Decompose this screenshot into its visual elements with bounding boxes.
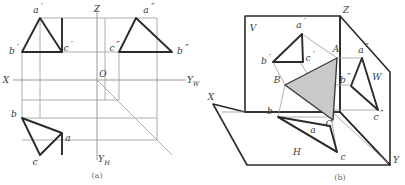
plane-label-w: W (372, 72, 382, 82)
plane-w-poly (340, 16, 390, 165)
label-B-right: B (273, 75, 281, 85)
label-a-prime-left: a (33, 5, 38, 15)
axis-label-z-left: Z (93, 4, 101, 14)
triangle-a-b-c-frontal (22, 18, 62, 52)
label-a-plain-left: a (65, 133, 70, 143)
label-a-double-prime-right: a (358, 45, 363, 55)
label-b-double-prime-right-mark: ″ (347, 72, 351, 82)
label-c-plain-left: c (32, 157, 37, 167)
plane-h-poly (213, 104, 390, 165)
label-c-double-prime-right-mark: ″ (380, 109, 384, 119)
triangle-a-b-c-horizontal (22, 118, 62, 155)
label-c-double-prime-left: c (109, 43, 114, 53)
frontal-triangle-right (273, 34, 303, 62)
axis-label-z-right: Z (342, 5, 350, 15)
label-b-plain-right: b (267, 106, 273, 116)
axis-label-x-left: X (2, 75, 10, 85)
label-c-plain-right: c (340, 152, 345, 162)
profile-projection-triangle (119, 18, 172, 52)
shaded-triangle-ABC (285, 58, 337, 120)
triangle-abc-double-right (351, 58, 378, 110)
axes-left (13, 8, 186, 160)
plane-h-outline (213, 104, 390, 165)
label-c-prime-right-mark: ′ (313, 50, 315, 60)
label-a-double-prime-left: a (143, 5, 148, 15)
right-pictorial-view: V H W X Z Y A B C a ′ b ′ c ′ a ″ b ″ c … (207, 5, 400, 182)
label-b-plain-left: b (11, 109, 17, 119)
plane-label-h: H (292, 147, 301, 157)
axis-label-yw-subscript-left: W (193, 80, 201, 88)
label-C-right: C (326, 119, 333, 129)
label-a-double-prime-left-mark: ″ (151, 2, 155, 12)
label-a-plain-right: a (310, 125, 315, 135)
axis-y-diagonal (330, 110, 388, 163)
label-A-right: A (332, 44, 340, 54)
caption-left: (a) (91, 171, 102, 180)
label-a-prime-right-mark: ′ (304, 17, 306, 27)
label-b-prime-right-mark: ′ (269, 53, 271, 63)
horizontal-projection-triangle (22, 118, 62, 155)
label-b-prime-left: b (9, 46, 15, 56)
label-c-prime-left-mark: ′ (71, 40, 73, 50)
label-c-double-prime-right: c (373, 112, 378, 122)
technical-drawing-figure: a ′ b ′ c ′ a ″ b ″ c ″ a b c X Z Y W Y … (0, 0, 405, 185)
axis-label-origin-left: O (99, 69, 107, 79)
miter-line-45deg (97, 80, 172, 155)
figure-canvas: a ′ b ′ c ′ a ″ b ″ c ″ a b c X Z Y W Y … (0, 0, 405, 185)
triangle-abc-prime-right (273, 34, 303, 62)
plane-label-v: V (250, 23, 258, 33)
axis-label-yh-subscript-left: H (103, 159, 110, 167)
label-c-prime-right: c (305, 53, 310, 63)
triangle-ABC-shaded (285, 58, 337, 120)
label-a-prime-right: a (296, 20, 301, 30)
frontal-projection-triangle (22, 18, 62, 52)
label-a-prime-left-mark: ′ (41, 2, 43, 12)
left-orthographic-view: a ′ b ′ c ′ a ″ b ″ c ″ a b c X Z Y W Y … (2, 2, 201, 180)
profile-triangle-right (351, 58, 378, 110)
caption-right: (b) (334, 173, 345, 182)
label-b-double-prime-right: b (340, 75, 346, 85)
label-b-double-prime-left: b (177, 46, 183, 56)
plane-w-outline (340, 16, 390, 165)
axis-label-x-right: X (207, 92, 215, 102)
axis-label-y-right: Y (393, 155, 400, 165)
label-b-prime-left-mark: ′ (17, 43, 19, 53)
label-b-double-prime-left-mark: ″ (185, 43, 189, 53)
triangle-a-b-c-profile (119, 18, 172, 52)
label-c-prime-left: c (63, 43, 68, 53)
label-b-prime-right: b (261, 56, 267, 66)
